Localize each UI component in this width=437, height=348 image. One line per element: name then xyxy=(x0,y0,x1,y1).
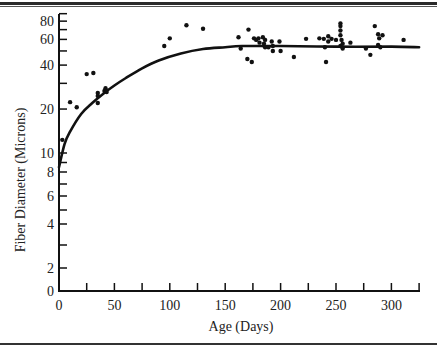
y-axis-title: Fiber Diameter (Microns) xyxy=(13,107,29,252)
data-point xyxy=(85,72,89,76)
data-point xyxy=(278,49,282,53)
data-point xyxy=(348,40,352,44)
data-point xyxy=(317,36,321,40)
data-point xyxy=(162,44,166,48)
data-point xyxy=(339,38,343,42)
data-point xyxy=(324,60,328,64)
y-tick-label: 2 xyxy=(47,261,54,276)
y-tick-labels: 024681020406080 xyxy=(40,14,54,299)
data-point xyxy=(323,45,327,49)
y-tick-label: 40 xyxy=(40,58,54,73)
data-point xyxy=(340,46,344,50)
y-tick-label: 8 xyxy=(47,165,54,180)
y-tick-label: 6 xyxy=(47,189,54,204)
data-point xyxy=(256,36,260,40)
x-tick-label: 250 xyxy=(326,298,347,313)
data-point xyxy=(263,38,267,42)
data-point xyxy=(239,46,243,50)
data-point xyxy=(380,33,384,37)
data-point xyxy=(245,57,249,61)
data-point xyxy=(201,27,205,31)
data-point xyxy=(271,44,275,48)
data-point xyxy=(338,33,342,37)
data-point xyxy=(184,23,188,27)
x-tick-label: 0 xyxy=(56,298,63,313)
x-tick-label: 150 xyxy=(215,298,236,313)
data-point xyxy=(364,46,368,50)
data-point xyxy=(257,40,261,44)
y-tick-label: 80 xyxy=(40,14,54,29)
x-tick-labels: 050100150200250300 xyxy=(56,298,402,313)
data-point xyxy=(338,24,342,28)
data-point xyxy=(377,36,381,40)
data-point xyxy=(338,28,342,32)
x-ticks xyxy=(87,283,419,291)
y-tick-label: 10 xyxy=(40,146,54,161)
data-point xyxy=(378,45,382,49)
data-point xyxy=(373,24,377,28)
data-point xyxy=(104,90,108,94)
data-point xyxy=(329,37,333,41)
y-tick-label: 20 xyxy=(40,102,54,117)
x-tick-label: 100 xyxy=(159,298,180,313)
data-points xyxy=(60,21,406,142)
data-point xyxy=(271,49,275,53)
data-point xyxy=(376,32,380,36)
data-point xyxy=(340,42,344,46)
data-point xyxy=(91,71,95,75)
data-point xyxy=(96,101,100,105)
data-point xyxy=(401,38,405,42)
data-point xyxy=(68,100,72,104)
data-point xyxy=(168,36,172,40)
fitted-curve-line xyxy=(59,46,419,167)
data-point xyxy=(292,55,296,59)
data-point xyxy=(250,60,254,64)
x-axis-title: Age (Days) xyxy=(209,319,274,335)
data-point xyxy=(60,138,64,142)
data-point xyxy=(270,39,274,43)
data-point xyxy=(266,45,270,49)
x-tick-label: 50 xyxy=(107,298,121,313)
y-tick-label: 0 xyxy=(47,284,54,299)
data-point xyxy=(368,53,372,57)
x-tick-label: 300 xyxy=(381,298,402,313)
fiber-diameter-chart: 024681020406080 050100150200250300 Age (… xyxy=(0,0,437,348)
data-point xyxy=(304,37,308,41)
data-point xyxy=(236,35,240,39)
data-point xyxy=(246,27,250,31)
data-point xyxy=(322,37,326,41)
data-point xyxy=(96,94,100,98)
data-point xyxy=(277,39,281,43)
y-tick-label: 60 xyxy=(40,32,54,47)
x-tick-label: 200 xyxy=(270,298,291,313)
data-point xyxy=(334,38,338,42)
y-tick-label: 4 xyxy=(47,217,54,232)
data-point xyxy=(75,105,79,109)
data-point xyxy=(103,86,107,90)
axes xyxy=(58,14,420,291)
